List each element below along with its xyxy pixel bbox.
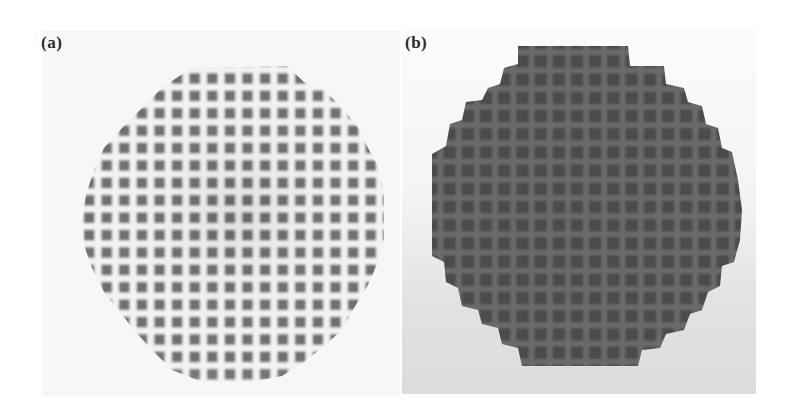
panel-label-b: (b) — [405, 33, 427, 53]
figure: (a) — [0, 0, 791, 409]
panel-label-a: (a) — [41, 33, 62, 53]
honeycomb-photo-dark — [402, 30, 756, 394]
honeycomb-photo-white — [42, 30, 400, 396]
panel-b: (b) — [395, 0, 791, 409]
panel-a: (a) — [0, 0, 400, 409]
